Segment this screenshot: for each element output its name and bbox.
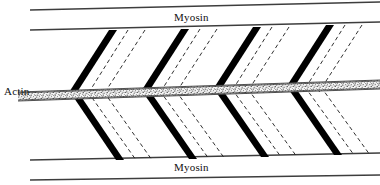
myosin-top-label: Myosin <box>174 11 209 23</box>
crossbridge-bar-lower-2 <box>142 91 197 159</box>
crossbridge-bar-lower-1 <box>70 92 124 160</box>
actin-label: Actin <box>4 85 29 97</box>
diagram-canvas <box>0 0 380 185</box>
crossbridge-bar-upper-1 <box>66 30 117 97</box>
actin-myosin-figure: Myosin Myosin Actin <box>0 0 380 185</box>
actin-filament-group <box>18 80 380 101</box>
crossbridge-bar-upper-2 <box>138 29 189 96</box>
crossbridge-bar-lower-3 <box>214 89 269 157</box>
myosin-bottom-label: Myosin <box>174 161 209 173</box>
crossbridge-bar-lower-4 <box>287 87 342 155</box>
myosin-line-bottom-outer <box>30 175 380 180</box>
myosin-line-top-outer <box>30 2 380 10</box>
